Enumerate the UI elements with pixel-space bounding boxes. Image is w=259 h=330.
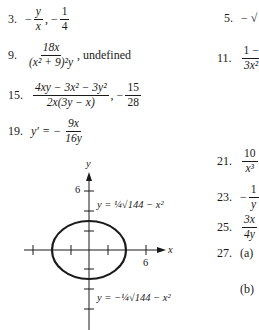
y-tick-label: 6 [75,184,80,195]
x-axis-arrow-icon [157,247,166,253]
y-axis-label: y [86,158,91,169]
ellipse-graph [0,0,259,330]
y-axis-arrow-icon [86,172,92,181]
x-axis-label: x [168,244,173,255]
upper-curve-label: y = ¼√144 − x² [97,199,164,210]
lower-curve-label: y = −¼√144 − x² [97,292,171,303]
x-tick-label: 6 [143,257,148,268]
